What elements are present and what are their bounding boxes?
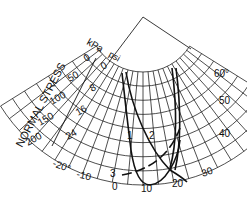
angle-tick-40: 40 <box>219 128 231 139</box>
stress-polar-diagram: NORMAL STRESS kPa psi 0 50 100 150 200 0… <box>0 0 247 206</box>
curve-label-1: 1 <box>127 130 133 141</box>
curve-label-3: 3 <box>110 168 116 179</box>
kpa-tick-50: 50 <box>66 68 82 83</box>
angle-tick-m10: -10 <box>76 168 93 182</box>
curve-label-2: 2 <box>149 130 155 141</box>
curve-right <box>170 68 180 170</box>
angle-tick-30: 30 <box>200 165 215 179</box>
angle-tick-50: 50 <box>219 95 231 106</box>
unit-kpa: kPa <box>85 36 106 54</box>
angle-tick-60: 60° <box>214 68 229 79</box>
angle-tick-20: 20 <box>172 178 184 189</box>
psi-tick-0: 0 <box>99 59 110 72</box>
angle-tick-10: 10 <box>141 183 153 194</box>
angle-tick-0: 0 <box>112 181 118 192</box>
psi-tick-16: 16 <box>74 102 90 117</box>
psi-tick-24: 24 <box>64 126 80 141</box>
angle-tick-m20: -20° <box>51 158 72 175</box>
